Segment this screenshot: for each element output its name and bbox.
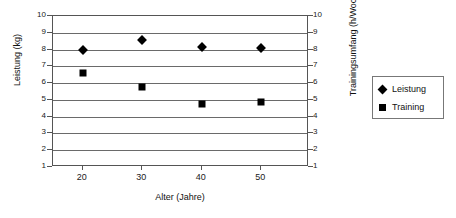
gridline xyxy=(53,83,307,84)
y-axis-tick-label: 10 xyxy=(30,11,46,19)
y-axis-tick-label: 3 xyxy=(30,128,46,136)
x-axis-tick xyxy=(201,166,202,170)
y-axis-right-labels: 12345678910 xyxy=(313,0,331,218)
data-point-diamond xyxy=(137,35,147,45)
y2-axis-tick-label: 8 xyxy=(313,45,329,53)
x-axis-tick-label: 30 xyxy=(129,172,153,182)
gridline xyxy=(53,50,307,51)
gridline xyxy=(53,117,307,118)
data-point-diamond xyxy=(78,45,88,55)
diamond-marker-icon xyxy=(378,84,388,94)
y2-axis-tick-label: 3 xyxy=(313,128,329,136)
y-axis-tick xyxy=(47,149,52,150)
y2-axis-tick-label: 6 xyxy=(313,78,329,86)
data-point-diamond xyxy=(256,43,266,53)
y2-axis-tick-label: 2 xyxy=(313,145,329,153)
y-axis-tick-label: 4 xyxy=(30,112,46,120)
y2-axis-tick-label: 5 xyxy=(313,95,329,103)
y-axis-left-labels: 12345678910 xyxy=(28,0,46,218)
x-axis-tick-label: 40 xyxy=(189,172,213,182)
data-point-square xyxy=(198,101,205,108)
legend-item-leistung: Leistung xyxy=(379,83,426,95)
y-axis-tick xyxy=(47,32,52,33)
y-axis-tick-label: 6 xyxy=(30,78,46,86)
x-axis-tick-label: 50 xyxy=(248,172,272,182)
x-axis-title: Alter (Jahre) xyxy=(52,192,308,202)
y-axis-tick xyxy=(47,15,52,16)
y-axis-tick-label: 2 xyxy=(30,145,46,153)
y-axis-tick-label: 5 xyxy=(30,95,46,103)
x-axis-tick-label: 20 xyxy=(70,172,94,182)
y-axis-right-title: Trainingsumfang (h/Woche) xyxy=(348,0,358,116)
y-axis-tick xyxy=(47,132,52,133)
y-axis-tick xyxy=(47,49,52,50)
chart-figure: 12345678910 Leistung (kg) 12345678910 Tr… xyxy=(0,0,456,218)
x-axis-tick xyxy=(82,166,83,170)
square-marker-icon xyxy=(379,104,386,111)
y2-axis-tick-label: 4 xyxy=(313,112,329,120)
legend-item-label: Leistung xyxy=(392,85,426,94)
plot-area xyxy=(52,15,308,166)
gridline xyxy=(53,150,307,151)
y2-axis-tick-label: 7 xyxy=(313,61,329,69)
y-axis-tick-label: 1 xyxy=(30,162,46,170)
x-axis-tick xyxy=(141,166,142,170)
data-point-square xyxy=(79,70,86,77)
gridline xyxy=(53,100,307,101)
y-axis-tick-label: 9 xyxy=(30,28,46,36)
y-axis-tick-label: 7 xyxy=(30,61,46,69)
gridline xyxy=(53,66,307,67)
y-axis-tick xyxy=(47,166,52,167)
y-axis-tick xyxy=(47,116,52,117)
y-axis-tick xyxy=(47,99,52,100)
gridline xyxy=(53,33,307,34)
y2-axis-tick-label: 10 xyxy=(313,11,329,19)
y2-axis-tick-label: 1 xyxy=(313,162,329,170)
legend: Leistung Training xyxy=(372,76,444,119)
y-axis-left-title: Leistung (kg) xyxy=(12,5,22,115)
y-axis-tick xyxy=(47,82,52,83)
y2-axis-tick-label: 9 xyxy=(313,28,329,36)
gridline xyxy=(53,133,307,134)
legend-item-label: Training xyxy=(392,103,424,112)
data-point-square xyxy=(139,84,146,91)
data-point-square xyxy=(258,99,265,106)
x-axis-tick xyxy=(260,166,261,170)
legend-item-training: Training xyxy=(379,101,424,113)
y-axis-tick-label: 8 xyxy=(30,45,46,53)
y-axis-tick xyxy=(47,65,52,66)
